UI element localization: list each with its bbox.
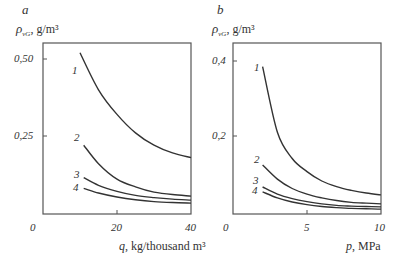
curve-2 — [263, 165, 381, 204]
curve-1 — [80, 53, 191, 158]
panel-a-curves — [80, 53, 191, 203]
curve-3 — [84, 178, 191, 201]
curve-2 — [84, 145, 191, 196]
panel-b-frame — [233, 43, 381, 214]
panel-a-frame — [43, 43, 191, 214]
curve-3 — [263, 187, 381, 207]
chart-canvas — [0, 0, 404, 258]
curve-1 — [263, 67, 381, 195]
panel-b-curves — [263, 67, 381, 210]
